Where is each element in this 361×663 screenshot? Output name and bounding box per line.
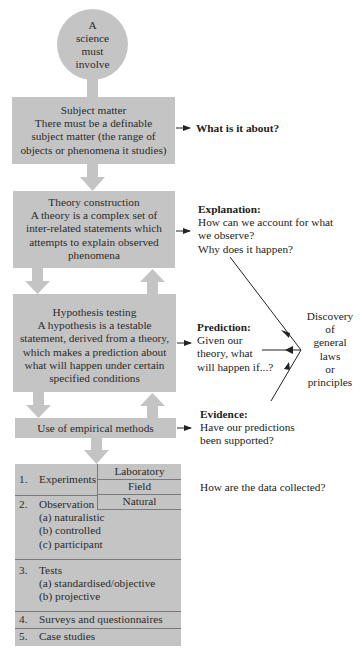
prediction-line: theory, what (197, 347, 273, 360)
box-title: Theory construction (13, 196, 175, 209)
box-line: which makes a prediction about (13, 346, 176, 359)
methods-table: 1.Experiments Laboratory Field Natural 2… (15, 464, 181, 646)
theory-construction-box: Theory construction A theory is a comple… (13, 191, 175, 268)
discovery-line: Discovery (303, 310, 357, 323)
explanation-note: Explanation: How can we account for what… (198, 203, 333, 256)
method-sub: (b) controlled (19, 524, 105, 537)
method-case-studies: 5.Case studies (19, 630, 95, 643)
method-observation: 2.Observation (a) naturalistic (b) contr… (19, 498, 105, 551)
divider (15, 495, 97, 496)
method-number: 3. (19, 564, 39, 577)
evidence-line: been supported? (200, 434, 295, 447)
experiment-type-laboratory: Laboratory (98, 465, 181, 478)
box-line: specified conditions (13, 372, 176, 385)
method-sub: (b) projective (19, 590, 155, 603)
experiment-type-natural: Natural (98, 495, 181, 508)
explanation-line: Why does it happen? (198, 243, 333, 256)
down-arrow-theory-hypothesis (25, 268, 50, 294)
box-line: statement, derived from a theory, (13, 332, 176, 345)
arrowhead-explanation (281, 330, 290, 338)
what-is-it-about-label: What is it about? (196, 122, 279, 135)
prediction-line: will happen if...? (197, 361, 273, 374)
down-arrow-empirical-table (84, 438, 109, 464)
method-surveys: 4.Surveys and questionnaires (19, 613, 163, 626)
discovery-line: principles (303, 376, 357, 389)
arrowhead-prediction (285, 346, 293, 354)
method-experiments: 1.Experiments (19, 473, 96, 486)
arrowhead-evidence (284, 362, 290, 370)
method-number: 4. (19, 613, 39, 626)
discovery-node: Discovery of general laws or principles (303, 310, 357, 389)
method-sub: (c) participant (19, 538, 105, 551)
box-line: what will happen under certain (13, 359, 176, 372)
method-tests: 3.Tests (a) standardised/objective (b) p… (19, 564, 155, 604)
discovery-line: or (303, 363, 357, 376)
prediction-line: Given our (197, 334, 273, 347)
subject-matter-box: Subject matter There must be a definable… (12, 97, 175, 164)
method-label: Tests (39, 564, 62, 576)
hypothesis-testing-box: Hypothesis testing A hypothesis is a tes… (13, 294, 176, 392)
experiment-types: Laboratory Field Natural (97, 464, 181, 510)
method-number: 1. (19, 473, 39, 486)
method-number: 2. (19, 498, 39, 511)
box-line: phenomena (13, 249, 175, 262)
up-arrow-empirical-hypothesis (140, 393, 165, 418)
box-line: attempts to explain observed (13, 236, 175, 249)
down-arrow-hypothesis-empirical (26, 392, 51, 418)
method-label: Observation (39, 498, 94, 510)
method-number: 5. (19, 630, 39, 643)
divider (15, 628, 181, 629)
box-line: There must be a definable (12, 117, 175, 130)
divider (15, 559, 181, 560)
start-line: involve (57, 58, 128, 71)
evidence-line: Have our predictions (200, 421, 295, 434)
divider (15, 611, 181, 612)
box-line: subject matter (the range of (12, 130, 175, 143)
box-title: Use of empirical methods (15, 422, 176, 435)
box-line: objects or phenomena it studies) (12, 144, 175, 157)
discovery-line: general (303, 336, 357, 349)
line-evidence-to-discovery (271, 350, 301, 401)
prediction-heading: Prediction: (197, 321, 273, 334)
start-line: A (57, 19, 128, 32)
up-arrow-hypothesis-theory (140, 269, 165, 294)
method-sub: (a) naturalistic (19, 511, 105, 524)
down-arrow-subject-theory (80, 164, 105, 191)
data-collection-question: How are the data collected? (200, 481, 325, 494)
box-title: Hypothesis testing (13, 306, 176, 319)
experiment-type-field: Field (98, 480, 181, 493)
start-node: A science must involve (57, 9, 128, 80)
explanation-line: we observe? (198, 229, 333, 242)
box-line: A hypothesis is a testable (13, 319, 176, 332)
discovery-line: laws (303, 350, 357, 363)
method-label: Experiments (39, 473, 96, 485)
method-label: Case studies (39, 630, 95, 642)
discovery-line: of (303, 323, 357, 336)
stem-connector (87, 78, 98, 98)
start-line: science (57, 32, 128, 45)
box-line: A theory is a complex set of (13, 209, 175, 222)
start-line: must (57, 45, 128, 58)
box-line: inter-related statements which (13, 222, 175, 235)
evidence-heading: Evidence: (200, 408, 295, 421)
evidence-note: Evidence: Have our predictions been supp… (200, 408, 295, 448)
box-title: Subject matter (12, 104, 175, 117)
method-label: Surveys and questionnaires (39, 613, 163, 625)
explanation-heading: Explanation: (198, 203, 333, 216)
prediction-note: Prediction: Given our theory, what will … (197, 321, 273, 374)
method-sub: (a) standardised/objective (19, 577, 155, 590)
explanation-line: How can we account for what (198, 216, 333, 229)
empirical-methods-box: Use of empirical methods (15, 418, 176, 438)
